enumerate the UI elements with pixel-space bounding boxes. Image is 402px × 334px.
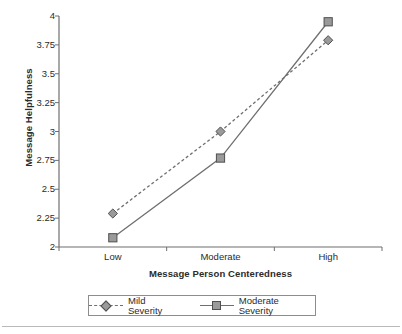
data-point-marker: [108, 209, 117, 218]
bottom-divider: [2, 326, 400, 327]
legend-item[interactable]: Moderate Severity: [200, 296, 315, 316]
legend-label: Mild Severity: [128, 296, 182, 316]
chart-figure: Message Helpfulness 22.252.52.7533.253.5…: [0, 0, 402, 334]
chart-legend: Mild SeverityModerate Severity: [88, 295, 316, 316]
x-tick-label: Low: [68, 251, 158, 263]
diamond-marker-icon: [89, 300, 123, 311]
x-tick-label: High: [283, 251, 373, 263]
legend-item[interactable]: Mild Severity: [89, 296, 182, 316]
x-axis-tick-labels: LowModerateHigh: [59, 251, 382, 267]
square-marker-icon: [200, 300, 234, 311]
data-point-marker: [216, 154, 224, 162]
x-tick-label: Moderate: [176, 251, 266, 263]
legend-label: Moderate Severity: [239, 296, 315, 316]
legend-marker: [212, 301, 221, 310]
data-point-marker: [109, 234, 117, 242]
data-point-marker: [324, 18, 332, 26]
plot-area: [0, 0, 402, 260]
data-series-layer: [108, 18, 333, 242]
legend-marker: [100, 300, 111, 311]
x-axis-title: Message Person Centeredness: [59, 268, 382, 279]
